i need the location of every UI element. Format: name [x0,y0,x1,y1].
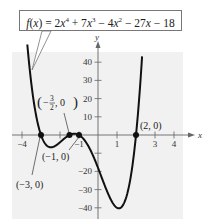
svg-text:(: ( [37,94,42,111]
svg-text:−1: −1 [74,139,84,149]
svg-text:2: 2 [50,103,54,112]
svg-text:40: 40 [83,57,93,67]
function-graph: x y −4−113440302010−20−30−40 (−3, 0) ( −… [0,0,208,223]
svg-text:−40: −40 [78,203,93,213]
svg-text:): ) [73,94,78,111]
intercept-point [67,132,73,138]
y-axis-label: y [94,32,99,42]
svg-text:3: 3 [50,94,54,103]
equation-callout: f(x) = 2x4 + 7x3 − 4x2 − 27x − 18 [19,10,182,31]
label-point-neg1: (−1, 0) [42,151,69,163]
svg-text:, 0: , 0 [55,97,65,108]
svg-text:1: 1 [115,139,120,149]
svg-text:3: 3 [153,139,158,149]
svg-text:−4: −4 [17,139,27,149]
label-point-neg3: (−3, 0) [16,179,43,191]
intercept-point [76,132,82,138]
intercept-point [133,132,139,138]
svg-text:10: 10 [83,112,93,122]
svg-text:−20: −20 [78,166,93,176]
x-axis-label: x [197,130,202,140]
svg-text:20: 20 [83,94,93,104]
svg-text:−: − [43,97,49,108]
plot-background [12,52,183,219]
svg-text:30: 30 [83,75,93,85]
svg-text:4: 4 [172,139,177,149]
svg-text:−30: −30 [78,185,93,195]
label-point-2: (2, 0) [140,120,162,132]
intercept-point [38,132,44,138]
